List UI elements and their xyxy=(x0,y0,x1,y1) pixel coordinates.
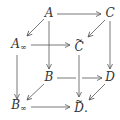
node-c-tilde: C xyxy=(74,41,83,53)
node-d-tilde-label: D xyxy=(74,102,84,114)
node-b-inf-label: B xyxy=(11,98,20,112)
commutative-cube-diagram: A C A∞ C B D B∞ D. xyxy=(0,0,120,120)
node-b-inf: B∞ xyxy=(11,99,27,115)
node-a-inf-label: A xyxy=(11,37,20,51)
node-c-label: C xyxy=(105,6,114,20)
arrow-a-to-a-inf xyxy=(27,19,44,36)
node-a-inf: A∞ xyxy=(11,38,26,54)
node-a-inf-subscript: ∞ xyxy=(20,43,27,52)
node-a: A xyxy=(45,7,54,19)
node-b-inf-subscript: ∞ xyxy=(20,104,27,113)
node-d-label: D xyxy=(105,70,115,84)
node-b: B xyxy=(45,71,54,83)
node-c: C xyxy=(105,7,114,19)
node-b-label: B xyxy=(45,70,54,84)
node-d-tilde: D. xyxy=(74,102,87,114)
arrow-c-to-c-tilde xyxy=(88,20,105,37)
arrow-b-to-b-inf xyxy=(27,84,44,100)
arrow-d-to-d-tilde xyxy=(89,84,105,100)
node-d: D xyxy=(105,71,115,83)
node-d-tilde-period: . xyxy=(84,101,88,115)
node-c-tilde-label: C xyxy=(74,41,83,53)
node-a-label: A xyxy=(45,6,54,20)
